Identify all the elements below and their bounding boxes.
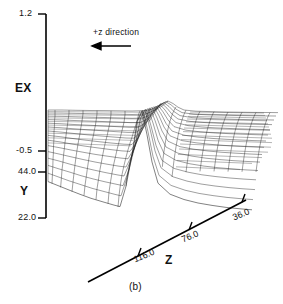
surface-mesh <box>48 101 278 210</box>
z-axis-ticks <box>138 194 245 256</box>
axis-title-y: Y <box>20 184 28 198</box>
mesh-shading-left <box>48 112 146 146</box>
z-direction-annotation-label: +z direction <box>93 27 139 37</box>
axis-tick-label-y-max: 44.0 <box>18 166 36 176</box>
axis-tick-label-y-min: 22.0 <box>18 212 36 222</box>
figure-caption: (b) <box>129 281 142 292</box>
z-axis <box>88 200 246 282</box>
axis-title-ex: EX <box>15 81 31 95</box>
left-arrow-icon <box>92 42 131 50</box>
axis-tick-label-ex-min: -0.5 <box>16 145 32 155</box>
axis-title-z: Z <box>165 253 173 267</box>
vertical-axis-ticks <box>38 14 46 218</box>
figure-3d-surface-plot: 1.2 EX -0.5 44.0 Y 22.0 +z direction 116… <box>0 0 283 304</box>
axis-tick-label-ex-max: 1.2 <box>19 8 32 18</box>
